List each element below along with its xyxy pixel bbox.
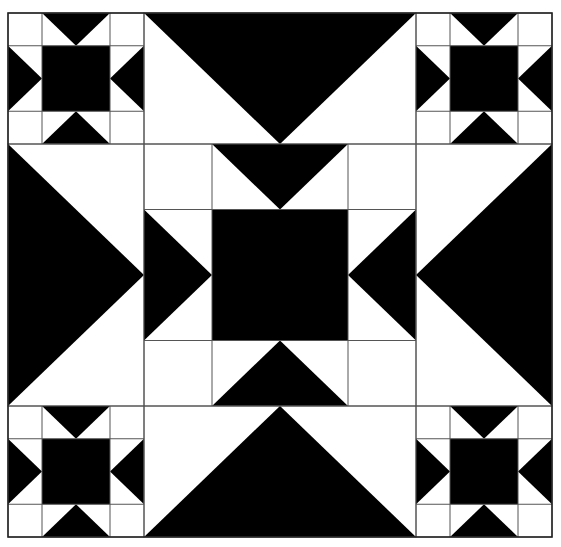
star-point-bottom [450, 111, 518, 144]
geese-triangle-left [416, 144, 552, 406]
star-point-right [110, 439, 144, 505]
star-point-right [348, 210, 416, 341]
middle-right-block [416, 144, 552, 406]
star-point-right [110, 46, 144, 112]
star-point-bottom [212, 341, 348, 407]
geese-triangle-right [8, 144, 144, 406]
middle-left-block [8, 144, 144, 406]
star-center-square [42, 439, 110, 505]
star-center-square [212, 210, 348, 341]
star-point-bottom [450, 504, 518, 537]
star-point-right [518, 439, 552, 505]
star-point-top [42, 13, 110, 46]
star-point-left [8, 439, 42, 505]
corner-bottom-left-block [8, 406, 144, 537]
bottom-middle-block [144, 406, 416, 537]
quilt-canvas [0, 0, 561, 547]
corner-top-right-block [416, 13, 552, 144]
corner-top-left-block [8, 13, 144, 144]
star-point-left [144, 210, 212, 341]
star-point-bottom [42, 504, 110, 537]
star-point-bottom [42, 111, 110, 144]
corner-bottom-right-block [416, 406, 552, 537]
star-point-left [8, 46, 42, 112]
center-block [144, 144, 416, 406]
top-middle-block [144, 13, 416, 144]
star-point-right [518, 46, 552, 112]
star-point-top [212, 144, 348, 210]
star-center-square [42, 46, 110, 112]
geese-triangle-down [144, 13, 416, 144]
star-point-top [450, 13, 518, 46]
star-center-square [450, 46, 518, 112]
star-point-left [416, 46, 450, 112]
geese-triangle-up [144, 406, 416, 537]
star-center-square [450, 439, 518, 505]
star-point-top [42, 406, 110, 439]
star-point-left [416, 439, 450, 505]
star-point-top [450, 406, 518, 439]
